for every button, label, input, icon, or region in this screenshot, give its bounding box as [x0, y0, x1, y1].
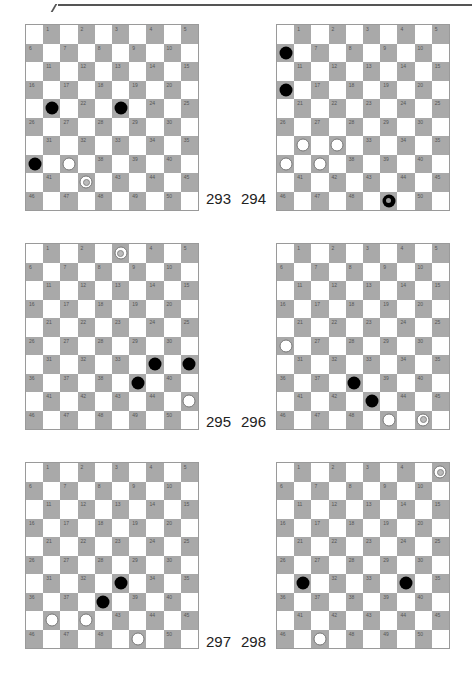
light-square	[112, 81, 129, 100]
square-43: 43	[112, 611, 129, 630]
square-number: 35	[184, 138, 190, 143]
square-42: 42	[78, 392, 95, 411]
square-number: 2	[332, 27, 335, 32]
square-41: 41	[294, 173, 311, 192]
square-6	[277, 44, 294, 63]
light-square	[164, 281, 181, 300]
square-number: 31	[297, 357, 303, 362]
square-27: 27	[311, 556, 328, 575]
square-number: 3	[115, 465, 118, 470]
square-25: 25	[432, 318, 449, 337]
square-25: 25	[181, 99, 198, 118]
light-square	[112, 482, 129, 501]
light-square	[60, 355, 77, 374]
square-number: 33	[115, 357, 121, 362]
light-square	[294, 81, 311, 100]
square-number: 15	[435, 64, 441, 69]
light-square	[294, 519, 311, 538]
square-number: 50	[418, 194, 424, 199]
square-number: 4	[400, 246, 403, 251]
light-square	[397, 263, 414, 282]
square-number: 44	[149, 613, 155, 618]
square-20: 20	[415, 300, 432, 319]
square-24: 24	[397, 318, 414, 337]
square-number: 50	[167, 413, 173, 418]
square-44: 44	[397, 611, 414, 630]
square-38: 38	[346, 155, 363, 174]
square-43: 43	[363, 611, 380, 630]
square-9: 9	[380, 44, 397, 63]
light-square	[146, 192, 163, 211]
light-square	[363, 482, 380, 501]
square-4: 4	[397, 244, 414, 263]
light-square	[432, 411, 449, 430]
black-man-icon	[97, 595, 110, 608]
square-number: 11	[46, 64, 51, 69]
square-number: 23	[366, 539, 372, 544]
light-square	[112, 630, 129, 649]
square-number: 13	[115, 502, 121, 507]
square-number: 46	[29, 413, 35, 418]
light-square	[43, 630, 60, 649]
square-3: 3	[112, 25, 129, 44]
square-number: 1	[297, 27, 300, 32]
light-square	[95, 173, 112, 192]
square-3: 3	[112, 463, 129, 482]
light-square	[112, 300, 129, 319]
square-26: 26	[277, 118, 294, 137]
square-45: 45	[181, 173, 198, 192]
square-number: 17	[63, 83, 69, 88]
light-square	[60, 611, 77, 630]
square-49: 49	[380, 630, 397, 649]
square-2: 2	[329, 463, 346, 482]
square-7: 7	[60, 482, 77, 501]
square-number: 29	[383, 339, 389, 344]
square-7: 7	[311, 482, 328, 501]
square-47: 47	[60, 192, 77, 211]
square-50: 50	[164, 630, 181, 649]
square-number: 10	[167, 265, 173, 270]
light-square	[60, 574, 77, 593]
square-number: 12	[81, 502, 87, 507]
light-square	[346, 62, 363, 81]
square-6: 6	[26, 44, 43, 63]
square-14: 14	[146, 500, 163, 519]
square-number: 20	[418, 521, 424, 526]
square-7: 7	[311, 263, 328, 282]
square-number: 7	[63, 265, 66, 270]
square-12: 12	[329, 281, 346, 300]
light-square	[43, 556, 60, 575]
light-square	[26, 611, 43, 630]
light-square	[43, 374, 60, 393]
light-square	[146, 44, 163, 63]
square-number: 26	[280, 120, 286, 125]
square-31	[294, 574, 311, 593]
square-43: 43	[112, 173, 129, 192]
square-42	[78, 611, 95, 630]
light-square	[26, 281, 43, 300]
square-number: 25	[184, 320, 190, 325]
square-15: 15	[432, 500, 449, 519]
square-number: 3	[366, 246, 369, 251]
square-number: 27	[314, 120, 320, 125]
square-number: 40	[167, 595, 173, 600]
square-number: 26	[29, 558, 35, 563]
square-number: 19	[383, 302, 389, 307]
square-number: 45	[435, 613, 441, 618]
square-32: 32	[78, 574, 95, 593]
light-square	[78, 593, 95, 612]
square-6: 6	[277, 263, 294, 282]
light-square	[346, 281, 363, 300]
white-man-icon	[131, 632, 144, 645]
square-4: 4	[397, 25, 414, 44]
square-49: 49	[129, 192, 146, 211]
square-22: 22	[78, 537, 95, 556]
light-square	[311, 500, 328, 519]
square-21: 21	[294, 99, 311, 118]
light-square	[311, 463, 328, 482]
light-square	[43, 118, 60, 137]
light-square	[164, 244, 181, 263]
draughts-board-295: 1245678910111213141516171819202122232425…	[25, 243, 199, 430]
square-37: 37	[311, 593, 328, 612]
light-square	[164, 537, 181, 556]
